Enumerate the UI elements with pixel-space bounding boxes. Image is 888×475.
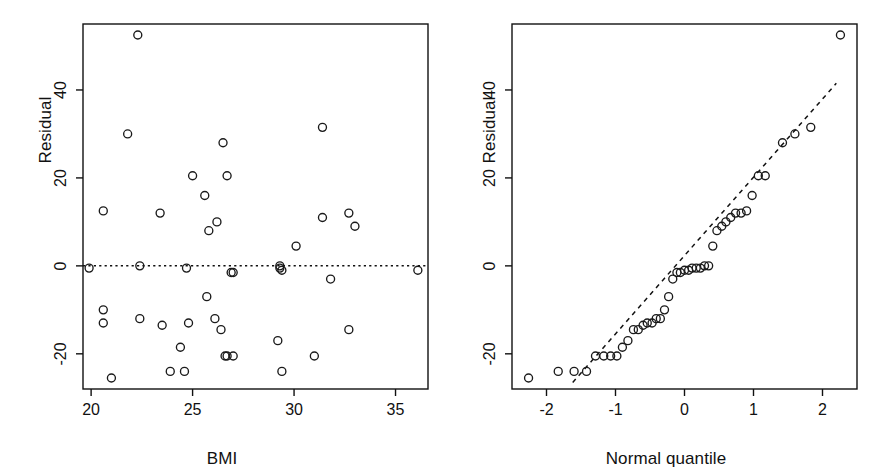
data-point bbox=[570, 367, 578, 375]
data-point bbox=[278, 367, 286, 375]
data-point bbox=[351, 222, 359, 230]
x-tick-label: 0 bbox=[680, 401, 689, 419]
right-x-axis-title: Normal quantile bbox=[444, 449, 888, 469]
data-point bbox=[727, 213, 735, 221]
data-point bbox=[748, 192, 756, 200]
y-tick-label: -20 bbox=[52, 342, 70, 365]
right-y-axis-title-wrap: Residual bbox=[400, 120, 580, 144]
data-point bbox=[176, 343, 184, 351]
data-point bbox=[713, 227, 721, 235]
data-point bbox=[327, 275, 335, 283]
right-plot-frame bbox=[512, 24, 857, 389]
data-point bbox=[345, 326, 353, 334]
data-point bbox=[136, 315, 144, 323]
data-point bbox=[223, 172, 231, 180]
x-tick-label: -1 bbox=[608, 401, 622, 419]
left-x-axis-title: BMI bbox=[0, 449, 444, 469]
data-point bbox=[624, 337, 632, 345]
data-point bbox=[213, 218, 221, 226]
data-point bbox=[217, 326, 225, 334]
data-point bbox=[583, 367, 591, 375]
data-point bbox=[318, 213, 326, 221]
left-y-axis-title-wrap: Residual bbox=[0, 120, 136, 144]
x-tick-label: 1 bbox=[749, 401, 758, 419]
x-tick-label: 25 bbox=[184, 401, 202, 419]
data-point bbox=[709, 242, 717, 250]
right-x-axis bbox=[547, 389, 823, 396]
y-tick-label: 40 bbox=[52, 81, 70, 99]
data-point bbox=[201, 192, 209, 200]
y-tick-label: 40 bbox=[481, 81, 499, 99]
data-point bbox=[219, 139, 227, 147]
data-point bbox=[414, 266, 422, 274]
data-point bbox=[189, 172, 197, 180]
data-point bbox=[660, 306, 668, 314]
data-point bbox=[180, 367, 188, 375]
data-point bbox=[292, 242, 300, 250]
data-point bbox=[591, 352, 599, 360]
y-tick-label: 20 bbox=[52, 169, 70, 187]
right-y-axis-title: Residual bbox=[480, 40, 500, 220]
data-point bbox=[836, 31, 844, 39]
data-point bbox=[158, 321, 166, 329]
y-tick-label: -20 bbox=[481, 342, 499, 365]
data-point bbox=[274, 337, 282, 345]
x-tick-label: 30 bbox=[285, 401, 303, 419]
left-x-axis bbox=[91, 389, 395, 396]
data-point bbox=[665, 293, 673, 301]
right-reference-line bbox=[573, 83, 837, 382]
residual-vs-bmi-plot bbox=[0, 0, 444, 475]
residual-diagnostic-figure: Residual BMI 20253035-2002040 Residual N… bbox=[0, 0, 888, 475]
data-point bbox=[554, 367, 562, 375]
y-tick-label: 0 bbox=[481, 261, 499, 270]
data-point bbox=[525, 374, 533, 382]
data-point bbox=[634, 326, 642, 334]
data-point bbox=[99, 207, 107, 215]
data-point bbox=[807, 123, 815, 131]
left-y-axis-title: Residual bbox=[36, 40, 56, 220]
data-point bbox=[205, 227, 213, 235]
data-point bbox=[185, 319, 193, 327]
data-point bbox=[99, 319, 107, 327]
panel-residual-vs-bmi: Residual BMI 20253035-2002040 bbox=[0, 0, 444, 475]
x-tick-label: 35 bbox=[387, 401, 405, 419]
x-tick-label: 2 bbox=[818, 401, 827, 419]
left-plot-frame bbox=[83, 24, 428, 389]
right-data-points bbox=[525, 31, 845, 382]
x-tick-label: -2 bbox=[539, 401, 553, 419]
panel-normal-qq: Residual Normal quantile -2-1012-2002040 bbox=[444, 0, 888, 475]
data-point bbox=[203, 293, 211, 301]
data-point bbox=[134, 31, 142, 39]
left-data-points bbox=[85, 31, 422, 382]
data-point bbox=[318, 123, 326, 131]
data-point bbox=[345, 209, 353, 217]
data-point bbox=[310, 352, 318, 360]
y-tick-label: 20 bbox=[481, 169, 499, 187]
data-point bbox=[211, 315, 219, 323]
data-point bbox=[229, 352, 237, 360]
y-tick-label: 0 bbox=[52, 261, 70, 270]
data-point bbox=[156, 209, 164, 217]
data-point bbox=[166, 367, 174, 375]
x-tick-label: 20 bbox=[82, 401, 100, 419]
data-point bbox=[99, 306, 107, 314]
data-point bbox=[107, 374, 115, 382]
